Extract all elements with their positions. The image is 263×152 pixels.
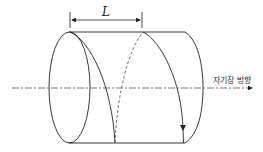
helix-direction-arrow-icon [180,125,186,131]
pitch-dimension: L [70,5,142,28]
helix-back-segment-dashed [115,32,143,143]
cylinder-right-edge [185,32,203,143]
helix-front-segment-2 [143,32,183,130]
cylinder-left-end [49,32,90,143]
helix-front-segment-1 [70,32,115,143]
cylinder [49,32,203,143]
helical-path [70,32,186,143]
helix-end [183,130,184,143]
field-direction-label: 자기장 방향 [213,75,252,85]
pitch-label: L [101,5,110,19]
helix-diagram: L 자기장 방향 [0,0,263,152]
